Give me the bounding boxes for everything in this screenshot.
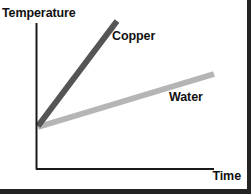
temperature-vs-time-chart: Temperature Time Copper Water	[0, 0, 251, 194]
series-label-copper: Copper	[112, 30, 155, 43]
frame-border-right	[247, 0, 251, 194]
frame-border-bottom	[0, 189, 251, 194]
series-line-copper	[38, 21, 117, 126]
frame-border-right-inner-gap	[245, 0, 247, 189]
series-label-water: Water	[169, 91, 203, 104]
x-axis-label: Time	[212, 170, 241, 183]
y-axis-label: Temperature	[2, 7, 76, 20]
